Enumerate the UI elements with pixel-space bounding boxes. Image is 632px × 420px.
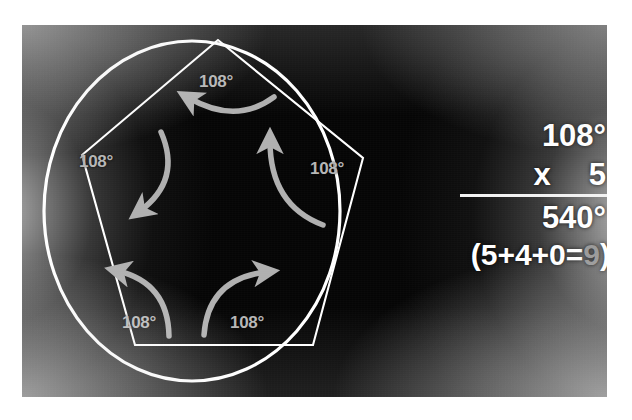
screenshot-root: 108° 108° 108° 108° 108° 108° x 5 540° (… [0, 0, 632, 420]
math-row-multiplicand: 108° [420, 120, 607, 151]
product-value: 540° [542, 202, 606, 233]
angle-label-right: 108° [310, 159, 344, 179]
multiplication-operator: x [534, 159, 551, 190]
math-row-multiplier: x 5 [420, 159, 607, 190]
multiplication-block: 108° x 5 540° (5+4+0=9) [420, 120, 607, 270]
angle-label-left: 108° [79, 152, 113, 172]
angle-arc-top [189, 97, 274, 111]
math-divider-rule [460, 194, 607, 197]
digit-sum-result: 9 [583, 240, 600, 270]
digit-sum-close-paren: ) [600, 240, 607, 270]
angle-arc-right [270, 141, 323, 225]
multiplier-value: 5 [589, 159, 606, 190]
angle-label-bottom-right: 108° [230, 313, 264, 333]
photograph: 108° 108° 108° 108° 108° 108° x 5 540° (… [22, 25, 607, 397]
angle-label-top: 108° [199, 72, 233, 92]
digit-sum-expression: (5+4+0= [471, 240, 584, 270]
angle-label-bottom-left: 108° [122, 313, 156, 333]
math-row-digit-sum: (5+4+0=9) [420, 240, 607, 270]
math-row-product: 540° [420, 202, 607, 233]
angle-arc-left [140, 132, 168, 211]
multiplicand-value: 108° [542, 120, 606, 151]
